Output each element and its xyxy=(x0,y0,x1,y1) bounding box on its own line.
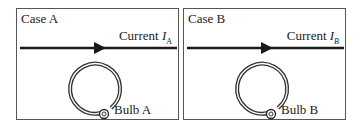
wire-loop xyxy=(70,64,120,114)
current-arrow-icon xyxy=(261,42,273,54)
bulb-label: Bulb B xyxy=(281,102,318,118)
case-a-diagram xyxy=(17,9,180,121)
wire-loop xyxy=(237,64,287,114)
case-b-diagram xyxy=(184,9,347,121)
bulb-icon xyxy=(100,110,109,119)
bulb-icon xyxy=(267,110,276,119)
current-arrow-icon xyxy=(94,42,106,54)
case-a-panel: Case A Current IA Bulb A xyxy=(16,8,179,120)
case-b-panel: Case B Current IB Bulb B xyxy=(183,8,346,120)
bulb-label: Bulb A xyxy=(114,102,151,118)
